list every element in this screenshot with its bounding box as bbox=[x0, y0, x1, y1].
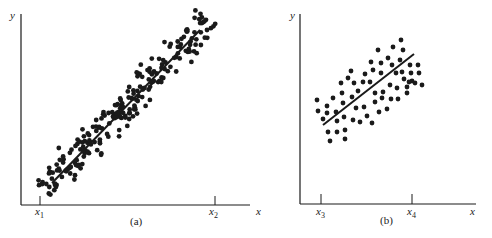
scatter-figure: y x x1 x2 (a) y x x3 x4 (b) bbox=[0, 0, 492, 238]
data-point bbox=[198, 21, 203, 26]
y-label-b: y bbox=[289, 9, 295, 21]
data-point bbox=[331, 96, 336, 101]
data-point bbox=[126, 95, 131, 100]
data-point bbox=[402, 77, 407, 82]
data-point bbox=[339, 81, 344, 86]
data-point bbox=[386, 56, 391, 61]
data-point bbox=[80, 162, 85, 167]
data-point bbox=[413, 81, 418, 86]
data-point bbox=[385, 107, 390, 112]
data-point bbox=[55, 168, 60, 173]
data-point bbox=[342, 115, 347, 120]
data-point bbox=[156, 80, 161, 85]
data-point bbox=[77, 139, 82, 144]
tick-label-x2: x2 bbox=[208, 205, 218, 220]
data-point bbox=[325, 111, 330, 116]
data-point bbox=[147, 66, 152, 71]
data-point bbox=[186, 47, 191, 52]
data-point bbox=[97, 125, 102, 130]
data-point bbox=[189, 60, 194, 65]
data-point bbox=[335, 130, 340, 135]
data-point bbox=[117, 134, 122, 139]
data-point bbox=[48, 170, 53, 175]
data-point bbox=[148, 84, 153, 89]
data-point bbox=[373, 100, 378, 105]
data-point bbox=[94, 118, 99, 123]
data-point bbox=[362, 105, 367, 110]
data-point bbox=[202, 35, 207, 40]
data-point bbox=[321, 117, 326, 122]
data-point bbox=[343, 137, 348, 142]
data-point bbox=[416, 63, 421, 68]
data-point bbox=[343, 128, 348, 133]
data-point bbox=[394, 71, 399, 76]
data-point bbox=[118, 96, 123, 101]
data-point bbox=[400, 70, 405, 75]
data-point bbox=[102, 113, 107, 118]
data-point bbox=[354, 106, 359, 111]
data-point bbox=[194, 51, 199, 56]
data-point bbox=[125, 89, 130, 94]
data-point bbox=[388, 83, 393, 88]
data-point bbox=[73, 144, 78, 149]
data-point bbox=[377, 110, 382, 115]
data-point bbox=[143, 104, 148, 109]
data-point bbox=[368, 80, 373, 85]
data-point bbox=[417, 71, 422, 76]
data-point bbox=[379, 61, 384, 66]
data-points-b bbox=[315, 38, 425, 144]
data-point bbox=[162, 40, 167, 45]
data-point bbox=[161, 58, 166, 63]
y-label-a: y bbox=[9, 9, 15, 21]
data-point bbox=[127, 85, 132, 90]
data-point bbox=[73, 173, 78, 178]
data-point bbox=[134, 70, 139, 75]
data-point bbox=[68, 171, 73, 176]
data-point bbox=[131, 114, 136, 119]
data-point bbox=[148, 98, 153, 103]
panel-b: y x x3 x4 (b) bbox=[289, 9, 476, 227]
data-point bbox=[365, 114, 370, 119]
data-point bbox=[138, 84, 143, 89]
data-point bbox=[341, 101, 346, 106]
data-point bbox=[110, 110, 115, 115]
data-point bbox=[125, 124, 130, 129]
data-point bbox=[69, 147, 74, 152]
data-point bbox=[379, 71, 384, 76]
data-point bbox=[105, 132, 110, 137]
data-point bbox=[369, 60, 374, 65]
data-point bbox=[47, 165, 52, 170]
data-point bbox=[405, 91, 410, 96]
data-point bbox=[340, 91, 345, 96]
tick-label-x3: x3 bbox=[315, 205, 325, 220]
data-point bbox=[78, 166, 83, 171]
data-point bbox=[351, 118, 356, 123]
data-point bbox=[40, 182, 45, 187]
data-point bbox=[358, 120, 363, 125]
data-point bbox=[193, 42, 198, 47]
data-point bbox=[373, 91, 378, 96]
data-point bbox=[205, 28, 210, 33]
data-point bbox=[135, 111, 140, 116]
data-point bbox=[161, 76, 166, 81]
data-point bbox=[398, 58, 403, 63]
data-point bbox=[325, 104, 330, 109]
data-point bbox=[194, 37, 199, 42]
data-point bbox=[193, 8, 198, 13]
data-point bbox=[61, 160, 66, 165]
data-point bbox=[61, 154, 66, 159]
x-label-b: x bbox=[469, 205, 475, 217]
data-point bbox=[376, 48, 381, 53]
data-point bbox=[82, 134, 87, 139]
data-point bbox=[335, 119, 340, 124]
data-point bbox=[349, 69, 354, 74]
data-point bbox=[174, 69, 179, 74]
data-point bbox=[316, 109, 321, 114]
caption-b: (b) bbox=[380, 214, 393, 227]
data-point bbox=[54, 185, 59, 190]
data-point bbox=[48, 192, 53, 197]
data-point bbox=[405, 85, 410, 90]
data-point bbox=[390, 63, 395, 68]
data-point bbox=[395, 86, 400, 91]
data-point bbox=[352, 81, 357, 86]
